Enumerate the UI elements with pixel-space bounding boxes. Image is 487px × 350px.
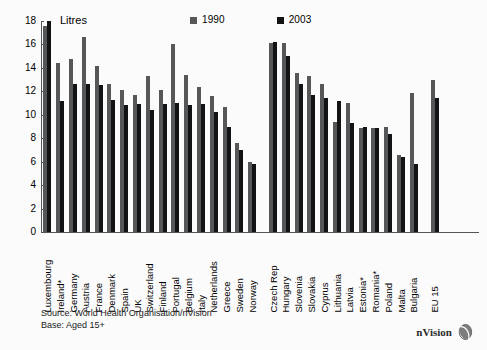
x-axis-label: Norway — [247, 280, 257, 312]
bar-2003[interactable] — [273, 42, 277, 232]
bar-group[interactable] — [105, 84, 118, 232]
bar-2003[interactable] — [188, 105, 192, 232]
brand-name: nVision — [416, 327, 452, 338]
bar-group[interactable] — [369, 128, 382, 232]
bar-2003[interactable] — [124, 105, 128, 232]
bar-group[interactable] — [356, 127, 369, 233]
x-axis-labels: LuxembourgIreland*GermanyAustriaFranceDe… — [41, 236, 479, 314]
bar-2003[interactable] — [435, 98, 439, 232]
bar-group[interactable] — [318, 84, 331, 232]
bar-group[interactable] — [182, 75, 195, 232]
x-axis-label: Netherlands — [209, 261, 219, 312]
bar-group[interactable] — [233, 143, 246, 232]
bar-2003[interactable] — [375, 128, 379, 232]
bar-2003[interactable] — [401, 157, 405, 232]
bar-2003[interactable] — [99, 85, 103, 232]
bar-group[interactable] — [169, 44, 182, 232]
y-tick-14: 14 — [25, 63, 41, 73]
bar-2003[interactable] — [137, 104, 141, 232]
chart-figure: 1990 2003 Litres 024681012141618 Luxembo… — [0, 0, 487, 350]
bar-group[interactable] — [54, 63, 67, 232]
x-axis-label: Bulgaria — [409, 277, 419, 312]
y-tick-6: 6 — [30, 157, 41, 167]
brand-logo: nVision — [416, 322, 475, 342]
bar-group[interactable] — [131, 95, 144, 232]
bar-group[interactable] — [67, 59, 80, 232]
bar-group[interactable] — [305, 76, 318, 232]
bar-2003[interactable] — [324, 98, 328, 232]
bar-group[interactable] — [92, 66, 105, 232]
y-tick-2: 2 — [30, 204, 41, 214]
bar-2003[interactable] — [111, 100, 115, 232]
x-axis-label: Malta — [396, 289, 406, 312]
bar-group[interactable] — [428, 80, 441, 232]
x-axis-label: Slovenia — [294, 276, 304, 312]
bar-2003[interactable] — [388, 134, 392, 232]
y-tick-12: 12 — [25, 86, 41, 96]
bar-2003[interactable] — [286, 56, 290, 232]
x-axis-label: Sweden — [234, 278, 244, 312]
bar-group[interactable] — [395, 155, 408, 232]
bar-group[interactable] — [343, 103, 356, 232]
bar-group[interactable] — [41, 21, 54, 232]
y-tick-4: 4 — [30, 180, 41, 190]
bar-group[interactable] — [143, 76, 156, 232]
bar-group[interactable] — [246, 162, 259, 232]
bar-group[interactable] — [220, 107, 233, 232]
x-axis-line — [41, 232, 479, 233]
bar-group[interactable] — [156, 90, 169, 232]
y-tick-8: 8 — [30, 133, 41, 143]
bar-group[interactable] — [279, 43, 292, 232]
bar-2003[interactable] — [299, 84, 303, 232]
bar-2003[interactable] — [414, 164, 418, 232]
bar-group[interactable] — [118, 90, 131, 232]
base-note: Base: Aged 15+ — [41, 319, 212, 331]
x-axis-label: EU 15 — [430, 286, 440, 312]
bar-2003[interactable] — [201, 104, 205, 232]
x-axis-label: Switzerland — [145, 263, 155, 312]
bar-2003[interactable] — [86, 84, 90, 232]
bar-2003[interactable] — [150, 110, 154, 232]
bar-2003[interactable] — [350, 123, 354, 232]
y-tick-18: 18 — [25, 16, 41, 26]
figure-footnotes: Source: World Health Organisation/nVisio… — [41, 307, 212, 331]
bar-group[interactable] — [331, 101, 344, 232]
x-axis-label: Hungary — [281, 276, 291, 312]
bar-2003[interactable] — [227, 127, 231, 233]
bar-group[interactable] — [292, 73, 305, 232]
nvision-logo-icon — [455, 322, 475, 342]
bar-group[interactable] — [195, 87, 208, 232]
bar-2003[interactable] — [363, 127, 367, 233]
x-axis-label: Poland — [383, 282, 393, 312]
y-tick-0: 0 — [30, 227, 41, 237]
bar-2003[interactable] — [60, 101, 64, 232]
bar-group[interactable] — [207, 96, 220, 232]
x-axis-label: Slovakia — [306, 276, 316, 312]
x-axis-label: Lithuania — [332, 273, 342, 312]
bar-group[interactable] — [382, 127, 395, 233]
x-axis-label: Cyprus — [319, 282, 329, 312]
bar-2003[interactable] — [47, 21, 51, 232]
x-axis-label: Estonia* — [358, 277, 368, 312]
bar-series-container — [41, 21, 479, 232]
bar-2003[interactable] — [175, 103, 179, 232]
bar-2003[interactable] — [73, 84, 77, 232]
bar-2003[interactable] — [337, 101, 341, 232]
source-note: Source: World Health Organisation/nVisio… — [41, 307, 212, 319]
bar-2003[interactable] — [252, 164, 256, 232]
y-tick-10: 10 — [25, 110, 41, 120]
bar-group[interactable] — [407, 93, 420, 232]
bar-2003[interactable] — [163, 104, 167, 232]
y-tick-16: 16 — [25, 39, 41, 49]
plot-area: 024681012141618 — [41, 21, 479, 232]
bar-group[interactable] — [267, 42, 280, 232]
x-axis-label: Czech Rep — [268, 265, 278, 312]
bar-2003[interactable] — [311, 95, 315, 232]
x-axis-label: Luxembourg — [42, 259, 52, 312]
x-axis-label: Greece — [222, 281, 232, 312]
bar-group[interactable] — [79, 37, 92, 232]
bar-2003[interactable] — [239, 150, 243, 232]
x-axis-label: Latvia — [345, 287, 355, 312]
bar-2003[interactable] — [214, 112, 218, 232]
x-axis-label: Romania* — [370, 270, 380, 312]
